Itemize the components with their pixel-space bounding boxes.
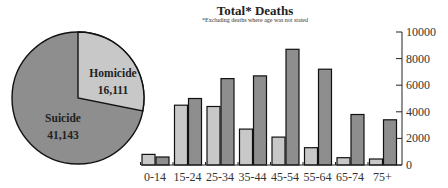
bar-suicide-15-24 — [189, 99, 202, 166]
bar-suicide-75+ — [384, 120, 397, 165]
bar-homicide-15-24 — [175, 105, 188, 165]
x-tick-label: 25-34 — [206, 170, 234, 184]
y-tick-label: 8000 — [406, 52, 430, 66]
bar-suicide-35-44 — [254, 76, 267, 165]
bar-chart-bars — [142, 49, 397, 165]
bar-homicide-25-34 — [207, 107, 220, 166]
x-tick-label: 35-44 — [239, 170, 267, 184]
bar-homicide-0-14 — [142, 154, 155, 165]
x-tick-label: 0-14 — [144, 170, 166, 184]
chart-canvas: Homicide 16,111 Suicide 41,143 0-1415-24… — [0, 0, 448, 188]
bar-homicide-75+ — [370, 159, 383, 165]
bar-suicide-65-74 — [351, 115, 364, 166]
x-axis: 0-1415-2425-3435-4445-5455-6465-7475+ — [141, 162, 403, 184]
bar-suicide-25-34 — [221, 79, 234, 165]
bar-suicide-0-14 — [156, 157, 169, 165]
x-tick-label: 55-64 — [304, 170, 332, 184]
x-tick-label: 15-24 — [174, 170, 202, 184]
pie-chart: Homicide 16,111 Suicide 41,143 — [12, 32, 144, 164]
pie-homicide-value: 16,111 — [98, 84, 129, 96]
bar-homicide-35-44 — [240, 129, 253, 165]
bar-homicide-65-74 — [337, 158, 350, 165]
x-tick-label: 45-54 — [271, 170, 299, 184]
y-tick-label: 2000 — [406, 131, 430, 145]
y-tick-label: 0 — [406, 158, 412, 172]
y-tick-label: 4000 — [406, 105, 430, 119]
y-axis: 0200040006000800010000 — [396, 25, 436, 172]
bar-suicide-55-64 — [319, 69, 332, 165]
bar-suicide-45-54 — [286, 49, 299, 165]
bar-homicide-55-64 — [305, 148, 318, 165]
pie-suicide-value: 41,143 — [47, 129, 79, 141]
y-tick-label: 6000 — [406, 78, 430, 92]
pie-homicide-label: Homicide — [89, 67, 136, 79]
pie-suicide-label: Suicide — [45, 112, 81, 124]
x-tick-label: 65-74 — [336, 170, 364, 184]
x-tick-label: 75+ — [373, 170, 392, 184]
y-tick-label: 10000 — [406, 25, 436, 39]
bar-homicide-45-54 — [272, 137, 285, 165]
